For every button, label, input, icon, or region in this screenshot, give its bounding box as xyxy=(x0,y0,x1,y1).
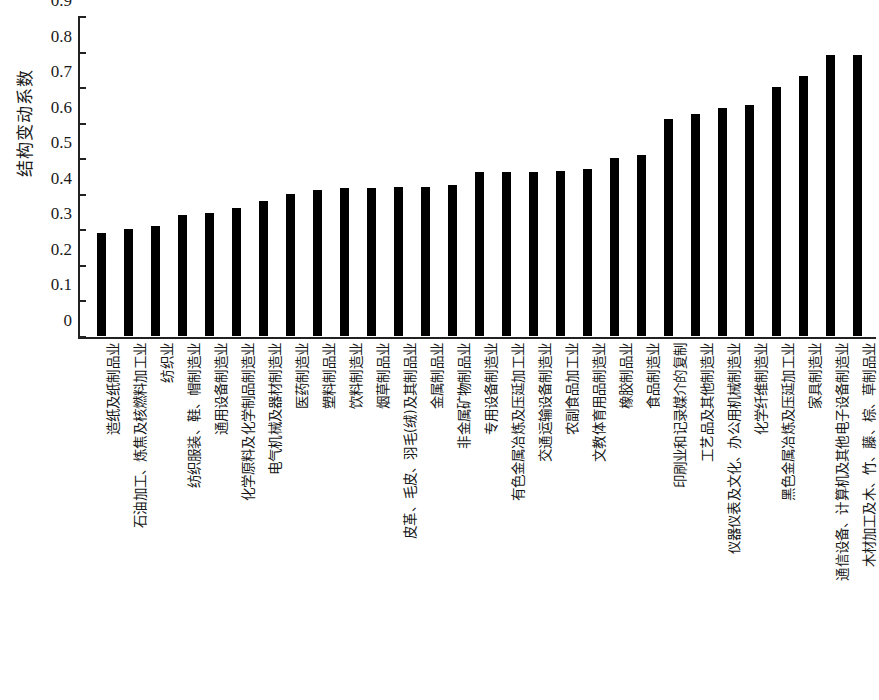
y-axis-tick-label: 0.2 xyxy=(34,241,72,258)
y-axis-tick xyxy=(78,336,86,338)
bar-chart-figure: 结构变动系数 0.90.80.70.60.50.40.30.20.10 造纸及纸… xyxy=(0,0,879,700)
x-axis-category-label: 化学纤维制造业 xyxy=(755,343,769,435)
y-axis-tick-label: 0.6 xyxy=(34,99,72,116)
y-axis-tick xyxy=(78,16,86,18)
x-axis-category-label: 有色金属冶炼及压延加工业 xyxy=(512,343,526,501)
x-axis-category-label: 化学原料及化学制品制造业 xyxy=(242,343,256,501)
x-axis-category-label: 通用设备制造业 xyxy=(215,343,229,435)
bar xyxy=(448,185,457,336)
x-axis-category-label: 食品制造业 xyxy=(647,343,661,409)
bar xyxy=(124,229,133,336)
x-axis-category-label: 造纸及纸制品业 xyxy=(107,343,121,435)
y-axis-tick xyxy=(78,265,86,267)
y-axis-tick xyxy=(78,194,86,196)
x-axis-category-label: 木材加工及木、竹、藤、棕、草制品业 xyxy=(863,343,877,567)
x-axis-category-label: 黑色金属冶炼及压延加工业 xyxy=(782,343,796,501)
bar xyxy=(826,55,835,336)
bar xyxy=(313,190,322,336)
bar xyxy=(637,155,646,336)
bar xyxy=(745,105,754,336)
bar xyxy=(421,187,430,336)
x-axis-category-label: 通信设备、计算机及其他电子设备制造业 xyxy=(836,343,850,581)
x-axis-category-label: 橡胶制品业 xyxy=(620,343,634,409)
x-axis-line xyxy=(78,337,876,339)
bar xyxy=(799,76,808,336)
bar xyxy=(664,119,673,336)
x-axis-category-label: 纺织业 xyxy=(161,343,175,383)
bar xyxy=(529,172,538,336)
x-axis-category-label: 电气机械及器材制造业 xyxy=(269,343,283,475)
bar xyxy=(556,171,565,336)
x-axis-category-label: 交通运输设备制造业 xyxy=(539,343,553,462)
x-axis-category-label: 农副食品加工业 xyxy=(566,343,580,435)
bar xyxy=(394,187,403,336)
y-axis-tick-label: 0.8 xyxy=(34,28,72,45)
y-axis-tick xyxy=(78,87,86,89)
y-axis-tick-label: 0.5 xyxy=(34,134,72,151)
x-axis-category-label: 皮革、毛皮、羽毛(绒)及其制品业 xyxy=(404,343,418,539)
y-axis-tick-label: 0.1 xyxy=(34,276,72,293)
bar xyxy=(232,208,241,336)
x-axis-category-label: 非金属矿物制品业 xyxy=(458,343,472,449)
y-axis-tick-labels: 0.90.80.70.60.50.40.30.20.10 xyxy=(30,0,72,340)
x-axis-category-label: 仪器仪表及文化、办公用机械制造业 xyxy=(728,343,742,554)
y-axis-tick-label: 0.4 xyxy=(34,170,72,187)
bar xyxy=(286,194,295,336)
x-axis-category-label: 塑料制品业 xyxy=(323,343,337,409)
bar xyxy=(583,169,592,336)
x-axis-category-label: 文教体育用品制造业 xyxy=(593,343,607,462)
y-axis-tick xyxy=(78,300,86,302)
plot-area xyxy=(78,17,875,338)
bar xyxy=(718,108,727,336)
y-axis-tick-label: 0.9 xyxy=(34,0,72,9)
y-axis-tick xyxy=(78,123,86,125)
bar xyxy=(475,172,484,336)
y-axis-tick xyxy=(78,229,86,231)
x-axis-category-label: 印刷业和记录媒介的复制 xyxy=(674,343,688,488)
bar xyxy=(367,188,376,336)
x-axis-category-label: 工艺品及其他制造业 xyxy=(701,343,715,462)
bar xyxy=(178,215,187,336)
x-axis-category-label: 纺织服装、鞋、帽制造业 xyxy=(188,343,202,488)
bar xyxy=(610,158,619,336)
bar xyxy=(772,87,781,336)
x-axis-category-label: 家具制造业 xyxy=(809,343,823,409)
y-axis-tick xyxy=(78,52,86,54)
y-axis-tick-label: 0.3 xyxy=(34,205,72,222)
y-axis-tick xyxy=(78,158,86,160)
bar xyxy=(151,226,160,336)
x-axis-category-label: 石油加工、炼焦及核燃料加工业 xyxy=(134,343,148,528)
bar xyxy=(502,172,511,336)
x-axis-category-label: 金属制品业 xyxy=(431,343,445,409)
bar xyxy=(205,213,214,336)
x-axis-category-label: 饮料制造业 xyxy=(350,343,364,409)
bar xyxy=(340,188,349,336)
bar xyxy=(259,201,268,336)
x-axis-category-labels: 造纸及纸制品业石油加工、炼焦及核燃料加工业纺织业纺织服装、鞋、帽制造业通用设备制… xyxy=(78,341,879,700)
x-axis-category-label: 专用设备制造业 xyxy=(485,343,499,435)
y-axis-tick-label: 0 xyxy=(34,312,72,329)
bar xyxy=(691,114,700,336)
bar xyxy=(853,55,862,336)
y-axis-tick-label: 0.7 xyxy=(34,63,72,80)
x-axis-category-label: 医药制造业 xyxy=(296,343,310,409)
y-axis-line xyxy=(78,17,80,339)
x-axis-category-label: 烟草制品业 xyxy=(377,343,391,409)
bar xyxy=(97,233,106,336)
